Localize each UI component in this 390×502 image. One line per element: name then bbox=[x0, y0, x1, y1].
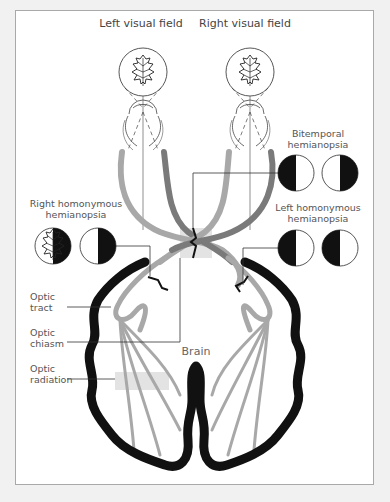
brain-outline bbox=[89, 262, 301, 466]
optic-chiasm-label: Optic chiasm bbox=[30, 327, 64, 349]
optic-tract-label: Optic tract bbox=[30, 291, 55, 313]
left-homonymous-defect-1 bbox=[278, 230, 314, 266]
brain-label: Brain bbox=[182, 346, 211, 357]
left-homonymous-defect-2 bbox=[322, 230, 358, 266]
right-homonymous-label-line1: Right homonymous bbox=[30, 198, 123, 209]
left-visual-field-circle bbox=[119, 48, 167, 96]
optic-chiasm-label-line1: Optic bbox=[30, 327, 64, 338]
bitemporal-label: Bitemporal hemianopsia bbox=[288, 128, 349, 150]
optic-radiation-label: Optic radiation bbox=[30, 363, 72, 385]
optic-chiasm-label-line2: chiasm bbox=[30, 338, 64, 349]
optic-tract-label-line2: tract bbox=[30, 302, 55, 313]
left-homonymous-label-line1: Left homonymous bbox=[275, 202, 360, 213]
optic-radiation-label-line1: Optic bbox=[30, 363, 72, 374]
visual-pathway-diagram bbox=[0, 0, 390, 502]
optic-radiation-label-line2: radiation bbox=[30, 374, 72, 385]
optic-tract-label-line1: Optic bbox=[30, 291, 55, 302]
left-visual-field-label: Left visual field bbox=[99, 18, 183, 29]
right-homonymous-label: Right homonymous hemianopsia bbox=[30, 198, 123, 220]
bitemporal-defect-2 bbox=[322, 155, 358, 191]
right-homonymous-defect-1 bbox=[35, 228, 71, 264]
right-visual-field-label: Right visual field bbox=[199, 18, 291, 29]
right-homonymous-defect-2 bbox=[80, 228, 116, 264]
bitemporal-label-line2: hemianopsia bbox=[288, 139, 349, 150]
optic-radiation-highlight bbox=[115, 372, 169, 390]
bitemporal-label-line1: Bitemporal bbox=[288, 128, 349, 139]
left-homonymous-label-line2: hemianopsia bbox=[275, 213, 360, 224]
left-homonymous-label: Left homonymous hemianopsia bbox=[275, 202, 360, 224]
bitemporal-defect-1 bbox=[278, 155, 314, 191]
right-visual-field-circle bbox=[226, 48, 274, 96]
right-homonymous-label-line2: hemianopsia bbox=[30, 209, 123, 220]
